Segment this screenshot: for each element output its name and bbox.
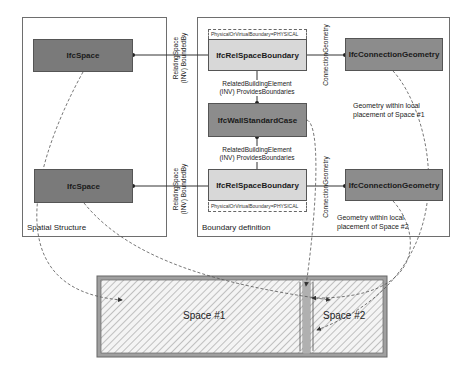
ifcspace-node-bottom[interactable]: IfcSpace [34, 169, 133, 203]
ifcconnectiongeometry-node-top[interactable]: IfcConnectionGeometry [345, 38, 443, 71]
spatial-structure-label: Spatial Structure [27, 223, 86, 232]
related-building-element-label-bottom: RelatedBuildingElement (INV) ProvidesBou… [207, 146, 307, 162]
rsb-top-attribute-tag: PhysicalOrVirtualBoundary=PHYSICAL [208, 29, 307, 39]
ifcspace-node-top[interactable]: IfcSpace [33, 39, 133, 72]
geometry-note-space1: Geometry within local placement of Space… [353, 101, 425, 119]
relating-space-label-bottom: RelatingSpace (INV) BoundedBy [172, 154, 188, 224]
ifcconnectiongeometry-node-bottom[interactable]: IfcConnectionGeometry [345, 169, 443, 201]
geometry-note-space2: Geometry within local placement of Space… [337, 213, 409, 231]
ifcrelspaceboundary-node-bottom[interactable]: IfcRelSpaceBoundary [208, 169, 307, 201]
boundary-definition-label: Boundary definition [202, 223, 271, 232]
ifcrelspaceboundary-node-top[interactable]: IfcRelSpaceBoundary [208, 39, 307, 71]
connection-geometry-label-top: ConnectionGeometry [322, 20, 330, 90]
space2-label: Space #2 [323, 310, 365, 321]
rsb-bottom-attribute-tag: PhysicalOrVirtualBoundary=PHYSICAL [208, 202, 307, 212]
space1-label: Space #1 [183, 310, 225, 321]
connection-geometry-label-bottom: ConnectionGeometry [322, 152, 330, 222]
related-building-element-label-top: RelatedBuildingElement (INV) ProvidesBou… [207, 80, 307, 96]
relating-space-label-top: RelatingSpace (INV) BoundedBy [172, 23, 188, 93]
ifcwallstandardcase-node[interactable]: IfcWallStandardCase [208, 103, 307, 137]
